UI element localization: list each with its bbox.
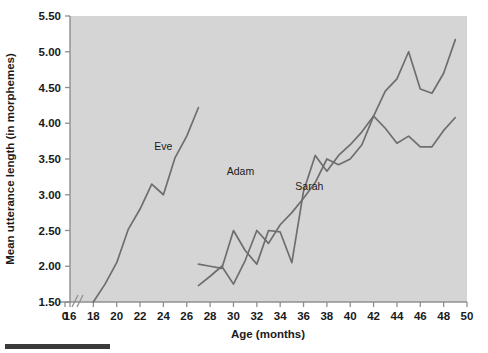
x-tick-label: 38	[320, 310, 333, 322]
y-tick-label: 2.50	[39, 225, 61, 237]
y-tick-label: 3.00	[39, 189, 61, 201]
mean-utterance-length-line-chart: 1.502.002.503.003.504.004.505.005.50 016…	[0, 0, 488, 353]
x-axis-title: Age (months)	[231, 328, 305, 340]
y-tick-label: 1.50	[39, 296, 61, 308]
y-tick-label: 4.50	[39, 82, 61, 94]
x-tick-label: 28	[204, 310, 217, 322]
y-tick-label: 4.00	[39, 117, 61, 129]
y-tick-label: 5.50	[39, 10, 61, 22]
x-tick-label: 20	[110, 310, 123, 322]
x-tick-label: 30	[227, 310, 240, 322]
x-tick-label: 44	[391, 310, 404, 322]
y-tick-label: 3.50	[39, 153, 61, 165]
x-tick-label: 48	[437, 310, 450, 322]
series-label-sarah: Sarah	[295, 180, 323, 192]
y-axis-ticks: 1.502.002.503.003.504.004.505.005.50	[39, 10, 70, 308]
x-tick-label: 50	[461, 310, 474, 322]
series-label-adam: Adam	[227, 165, 255, 177]
series-label-eve: Eve	[154, 140, 172, 152]
x-tick-label: 24	[157, 310, 170, 322]
y-tick-label: 5.00	[39, 46, 61, 58]
footer-rule	[5, 344, 110, 349]
x-tick-label: 46	[414, 310, 427, 322]
x-tick-label: 40	[344, 310, 357, 322]
chart-figure: 1.502.002.503.003.504.004.505.005.50 016…	[0, 0, 488, 353]
x-tick-label: 22	[134, 310, 147, 322]
x-tick-label: 36	[297, 310, 310, 322]
x-axis-ticks: 0161820222426283032343638404244464850	[62, 302, 474, 322]
x-tick-label: 26	[180, 310, 193, 322]
x-tick-label: 18	[87, 310, 100, 322]
y-tick-label: 2.00	[39, 260, 61, 272]
x-tick-label: 42	[367, 310, 380, 322]
x-tick-label: 16	[64, 310, 77, 322]
x-tick-label: 32	[250, 310, 263, 322]
x-tick-label: 34	[274, 310, 287, 322]
plot-area-background	[70, 16, 467, 302]
y-axis-title: Mean utterance length (in morphemes)	[4, 53, 16, 265]
